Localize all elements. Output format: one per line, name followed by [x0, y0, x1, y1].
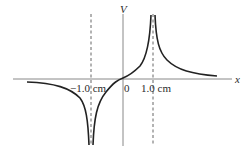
tick-pos-label: 1.0 cm [141, 82, 171, 94]
tick-neg-label: −1.0 cm [70, 82, 107, 94]
potential-chart: V x −1.0 cm 0 1.0 cm [0, 0, 250, 156]
v-axis-label: V [120, 3, 128, 15]
curve-middle [93, 15, 151, 145]
curve-right [155, 15, 217, 76]
tick-zero-label: 0 [124, 82, 130, 94]
x-axis-label: x [234, 73, 240, 85]
